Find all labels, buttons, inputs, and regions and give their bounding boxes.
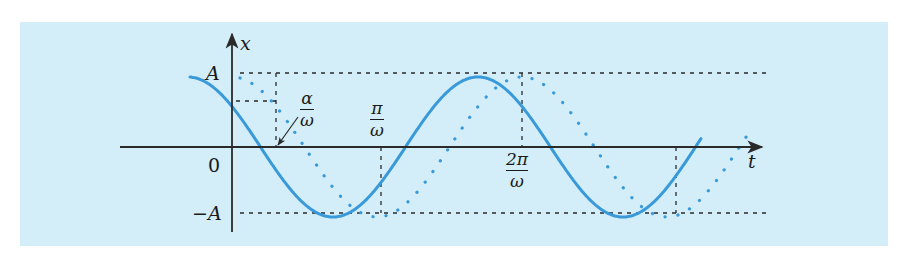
period-fraction-label: 2π ω — [506, 151, 528, 190]
guide-lines — [236, 73, 770, 213]
a-level-label: A — [206, 64, 220, 83]
minus-a-level-label: −A — [192, 204, 222, 223]
phase-numerator: α — [301, 90, 312, 107]
oscillation-plot — [0, 0, 910, 264]
half-period-denominator: ω — [370, 122, 384, 139]
half-period-fraction-label: π ω — [370, 100, 384, 139]
phase-denominator: ω — [300, 112, 314, 129]
half-period-numerator: π — [371, 100, 382, 117]
period-numerator: 2π — [506, 151, 528, 168]
t-axis-label: t — [748, 152, 756, 171]
phase-fraction-label: α ω — [300, 90, 314, 129]
x-axis-label: x — [240, 34, 251, 53]
origin-label: 0 — [208, 156, 220, 175]
period-denominator: ω — [510, 173, 524, 190]
